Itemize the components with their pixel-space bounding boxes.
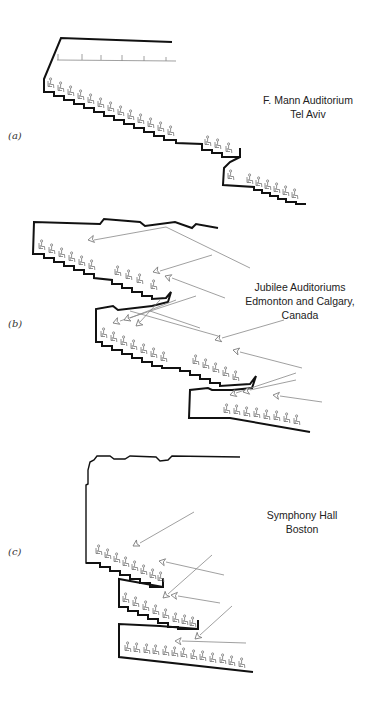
sound-rays-b — [87, 227, 322, 402]
seats-a-lower — [228, 170, 298, 199]
panel-a-section — [44, 38, 306, 204]
seats-b-lower — [224, 404, 300, 425]
seats-c-middle — [123, 593, 196, 627]
ceiling-reflector-ticks — [57, 54, 176, 61]
seats-b-upper — [39, 240, 157, 290]
auditorium-sections-diagram — [0, 0, 365, 703]
seats-a-upper — [48, 78, 232, 153]
panel-b-section — [33, 219, 322, 432]
panel-c-section — [86, 456, 253, 672]
